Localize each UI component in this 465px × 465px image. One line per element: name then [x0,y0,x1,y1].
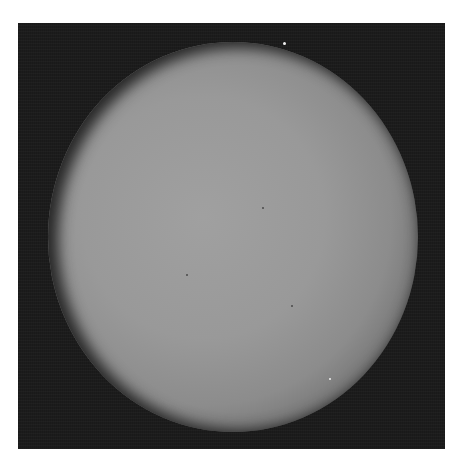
planet-disk [48,42,418,432]
bright-speck [283,42,286,45]
bright-speck [329,378,331,380]
dark-spot [186,274,188,276]
dark-spot [291,305,293,307]
dark-spot [262,207,264,209]
photo-frame [18,23,445,449]
